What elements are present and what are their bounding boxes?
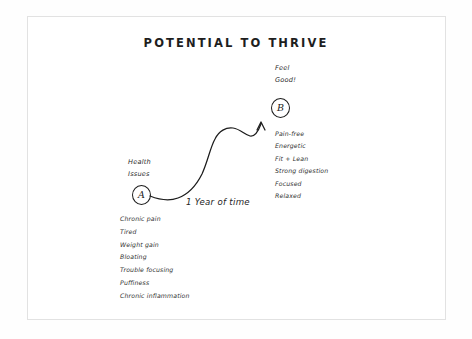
benefits-list: Pain-free Energetic Fit + Lean Strong di… <box>275 128 328 202</box>
curve-arrowhead <box>257 122 265 130</box>
point-a-label: Health Issues <box>128 156 151 180</box>
point-b-marker: B <box>271 98 290 118</box>
list-item: Puffiness <box>120 277 190 290</box>
point-b-label-line1: Feel <box>275 64 290 72</box>
diagram-canvas: POTENTIAL TO THRIVE A B Health Issues Fe… <box>0 0 472 339</box>
point-a-label-line2: Issues <box>128 170 150 178</box>
list-item: Chronic pain <box>120 213 190 226</box>
list-item: Weight gain <box>120 239 190 252</box>
list-item: Fit + Lean <box>275 153 328 165</box>
point-a-marker: A <box>132 185 151 205</box>
point-b-label-line2: Good! <box>275 76 296 84</box>
list-item: Energetic <box>275 140 328 152</box>
list-item: Strong digestion <box>275 165 328 177</box>
growth-curve-path <box>150 124 261 200</box>
list-item: Chronic inflammation <box>120 290 190 303</box>
list-item: Focused <box>275 178 328 190</box>
symptoms-list: Chronic pain Tired Weight gain Bloating … <box>120 213 190 303</box>
list-item: Trouble focusing <box>120 264 190 277</box>
growth-curve-svg <box>0 0 472 339</box>
time-span-label: 1 Year of time <box>186 198 250 207</box>
list-item: Bloating <box>120 251 190 264</box>
point-b-label: Feel Good! <box>275 62 296 86</box>
point-a-label-line1: Health <box>128 158 151 166</box>
list-item: Relaxed <box>275 190 328 202</box>
list-item: Tired <box>120 226 190 239</box>
list-item: Pain-free <box>275 128 328 140</box>
